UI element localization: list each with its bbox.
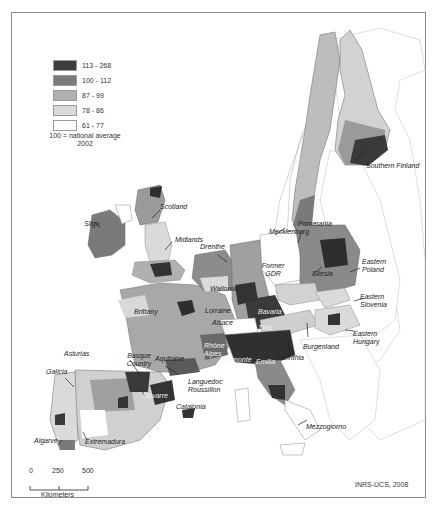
map-credit: INRS-UCS, 2008 — [355, 481, 408, 488]
label-carinthia: Carinthia — [276, 354, 304, 362]
label-wallonia: Wallonia — [210, 285, 237, 293]
label-lorraine: Lorraine — [205, 307, 231, 315]
legend-row: 78 - 86 — [53, 103, 111, 117]
label-extremadura: Extremadura — [85, 438, 125, 446]
label-burgenland: Burgenland — [303, 343, 339, 351]
label-scotland: Scotland — [160, 203, 187, 211]
legend-swatch — [53, 60, 77, 71]
scotland-north — [150, 186, 162, 198]
legend-note-line2: 2002 — [35, 140, 135, 148]
label-bavaria: Bavaria — [258, 308, 282, 316]
rome-region — [268, 385, 285, 400]
label-sligo: Sligo — [84, 220, 100, 228]
legend-row: 87 - 99 — [53, 88, 111, 102]
legend-row: 61 - 77 — [53, 118, 111, 132]
legend-swatch — [53, 75, 77, 86]
legend-row: 100 - 112 — [53, 73, 111, 87]
label-navarre: Navarre — [143, 392, 168, 400]
budapest-region — [328, 313, 340, 325]
label-languedoc-roussillon: Languedoc Roussillon — [188, 378, 228, 394]
sicily — [280, 443, 305, 455]
label-galicia: Galicia — [46, 368, 67, 376]
legend-label: 100 - 112 — [82, 77, 111, 84]
legend-label: 61 - 77 — [82, 122, 104, 129]
label-drenthe: Drenthe — [200, 243, 225, 251]
scale-tick-250: 250 — [52, 467, 64, 474]
label-tirol: Tirol — [258, 324, 272, 332]
scale-tick-500: 500 — [82, 467, 94, 474]
label-pomerania: Pomerania — [298, 220, 332, 228]
label-brittany: Brittany — [134, 308, 158, 316]
sardinia — [235, 388, 250, 422]
legend-label: 113 - 268 — [82, 62, 111, 69]
label-alsace: Alsace — [212, 319, 233, 327]
madrid-region — [118, 396, 128, 408]
legend-note-line1: 100 = national average — [35, 132, 135, 140]
legend-note: 100 = national average 2002 — [35, 132, 135, 148]
label-algarve: Algarve — [34, 437, 58, 445]
map-legend: 113 - 268 100 - 112 87 - 99 78 - 86 61 -… — [53, 58, 111, 133]
label-basque-country: Basque Country — [124, 352, 154, 368]
england-north — [145, 222, 172, 262]
label-aquitaine: Aquitaine — [155, 355, 184, 363]
czechia — [275, 283, 320, 305]
label-former-gdr: Former GDR — [258, 262, 288, 278]
south-italy — [285, 400, 320, 440]
label-eastern-slovenia: Eastern Slovenia — [360, 293, 394, 309]
label-midlands: Midlands — [175, 236, 203, 244]
label-silesia: Silesia — [312, 270, 333, 278]
legend-label: 78 - 86 — [82, 107, 104, 114]
legend-label: 87 - 99 — [82, 92, 104, 99]
label-catalonia: Catalonia — [176, 403, 206, 411]
scale-tick-0: 0 — [29, 467, 33, 474]
scale-unit: Kilometers — [41, 491, 74, 498]
legend-swatch — [53, 105, 77, 116]
scale-bar-graphic — [30, 486, 88, 490]
label-eastern-poland: Eastern Poland — [362, 258, 396, 274]
legend-swatch — [53, 120, 77, 131]
warsaw-region — [320, 238, 348, 268]
legend-swatch — [53, 90, 77, 101]
label-southern-finland: Southern Finland — [366, 162, 419, 170]
label-eastern-hungary: Eastern Hungary — [353, 330, 389, 346]
lisbon-region — [55, 413, 65, 425]
label-piemonte: Piemonte — [222, 356, 252, 364]
legend-row: 113 - 268 — [53, 58, 111, 72]
label-mecklenburg: Mecklenburg — [269, 228, 309, 236]
label-mezzogiorno: Mezzogiorno — [306, 423, 346, 431]
label-emilia: Emilia — [256, 358, 275, 366]
label-asturias: Asturias — [64, 350, 89, 358]
